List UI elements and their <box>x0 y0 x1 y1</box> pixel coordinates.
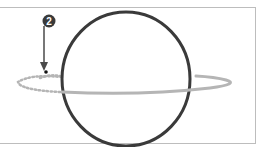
planet-ring-diagram: 2 <box>0 0 261 147</box>
circle-shape <box>62 12 190 146</box>
anchor-point-icon <box>44 70 48 74</box>
callout-badge-number: 2 <box>46 16 52 27</box>
ring-solid-segment <box>62 76 230 93</box>
callout-arrowhead-icon <box>40 62 48 71</box>
